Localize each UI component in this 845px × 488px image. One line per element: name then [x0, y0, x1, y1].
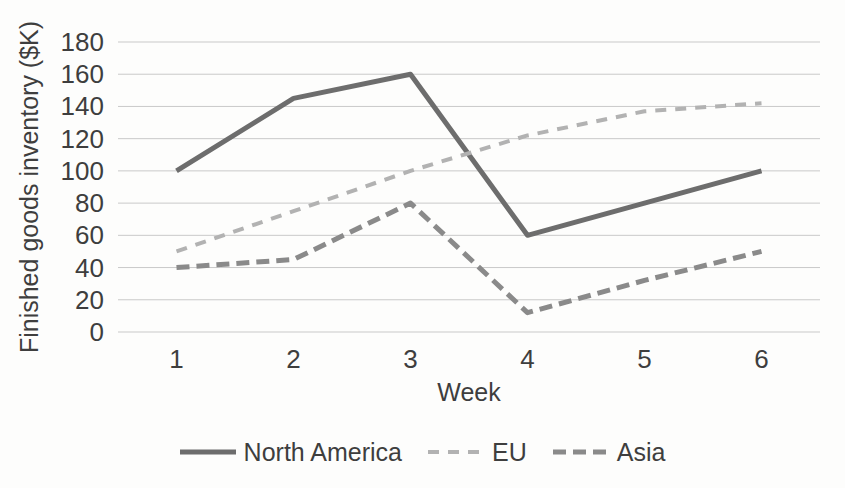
- legend-entry-north-america: North America: [180, 437, 402, 467]
- legend-entry-eu: EU: [428, 437, 527, 467]
- y-tick-label-100: 100: [34, 156, 104, 186]
- series-line-asia: [177, 203, 762, 313]
- y-tick-label-160: 160: [34, 59, 104, 89]
- legend-label-north-america: North America: [244, 437, 402, 467]
- legend-label-eu: EU: [492, 437, 527, 467]
- series-line-eu: [177, 103, 762, 251]
- x-tick-label-2: 2: [264, 344, 324, 374]
- y-tick-label-40: 40: [34, 253, 104, 283]
- legend-line-sample-north-america: [180, 447, 236, 457]
- legend: North AmericaEUAsia: [0, 437, 845, 467]
- x-axis-title: Week: [118, 377, 820, 407]
- y-tick-label-120: 120: [34, 124, 104, 154]
- y-tick-label-80: 80: [34, 188, 104, 218]
- line-chart-figure: Finished goods inventory ($K) 0204060801…: [0, 0, 845, 488]
- legend-line-sample-eu: [428, 447, 484, 457]
- x-tick-label-1: 1: [147, 344, 207, 374]
- x-tick-label-5: 5: [615, 344, 675, 374]
- y-tick-label-140: 140: [34, 91, 104, 121]
- y-tick-label-60: 60: [34, 220, 104, 250]
- legend-line-sample-asia: [553, 447, 609, 457]
- x-tick-label-6: 6: [732, 344, 792, 374]
- x-tick-label-3: 3: [381, 344, 441, 374]
- y-tick-label-20: 20: [34, 285, 104, 315]
- y-tick-label-180: 180: [34, 27, 104, 57]
- y-tick-label-0: 0: [34, 317, 104, 347]
- legend-entry-asia: Asia: [553, 437, 666, 467]
- legend-label-asia: Asia: [617, 437, 666, 467]
- x-tick-label-4: 4: [498, 344, 558, 374]
